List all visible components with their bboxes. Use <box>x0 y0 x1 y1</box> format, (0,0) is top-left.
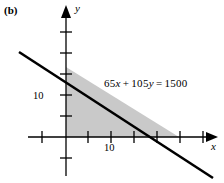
equation-equals-sign: = <box>154 77 165 89</box>
equation-plus-sign: + <box>121 77 132 89</box>
y-axis-label: y <box>75 2 80 14</box>
y-axis-tick-label-10: 10 <box>33 90 44 101</box>
x-axis-tick-label-10: 10 <box>104 142 115 153</box>
equation-coef-x: 65 <box>104 77 116 89</box>
equation-annotation: 65x+105y=1500 <box>104 77 188 89</box>
y-axis-arrow-icon <box>61 5 71 18</box>
constraint-line <box>19 52 213 178</box>
figure-panel-b: (b) <box>0 0 224 183</box>
equation-constant: 1500 <box>164 77 187 89</box>
x-axis-label: x <box>211 140 216 152</box>
equation-coef-y: 105 <box>131 77 148 89</box>
